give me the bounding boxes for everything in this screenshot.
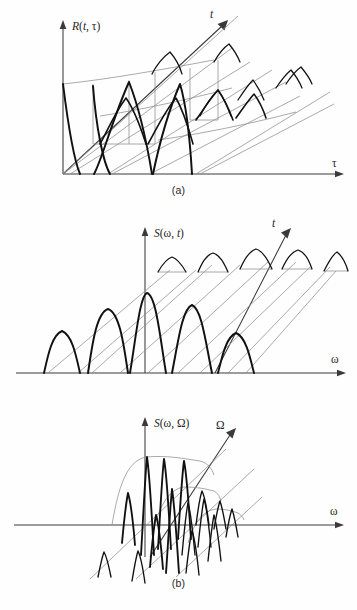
panel-a-depth-axis: [63, 20, 228, 174]
panel-a-caption: (a): [0, 184, 357, 196]
panel-c: S(ω, Ω) Ω ω (c): [0, 397, 357, 610]
panel-b-front-lobes: [44, 293, 254, 373]
panel-a-rear-lobes: [152, 44, 312, 84]
figure-three-panel-spectra: R(t, τ) t τ (a): [0, 0, 357, 610]
panel-c-depth-axis-label: Ω: [216, 419, 225, 431]
panel-b-plot: S(ω, t) t ω: [0, 205, 357, 397]
panel-b-horizontal-axis-label: ω: [331, 353, 339, 365]
panel-a-vertical-axis-label: R(t, τ): [71, 20, 100, 33]
panel-b-rear-lobes: [158, 249, 348, 272]
panel-c-foot-spikes: [98, 551, 145, 583]
panel-a: R(t, τ) t τ (a): [0, 0, 357, 208]
panel-c-horizontal-axis-label: ω: [330, 505, 338, 517]
panel-a-horizontal-axis: [63, 171, 344, 178]
panel-a-row1-lobes: [63, 82, 192, 174]
panel-b-rear-baselines: [158, 269, 348, 272]
panel-a-horizontal-axis-label: τ: [332, 157, 337, 169]
panel-b-depth-axis-label: t: [272, 217, 276, 229]
panel-a-row3-lobes: [200, 70, 302, 116]
panel-a-plot: R(t, τ) t τ: [0, 0, 357, 208]
panel-b: S(ω, t) t ω (b): [0, 205, 357, 397]
panel-b-vertical-axis-label: S(ω, t): [154, 227, 184, 240]
panel-c-row-baselines: [90, 449, 262, 579]
panel-c-row1-spikes: [122, 457, 209, 555]
panel-c-vertical-axis-label: S(ω, Ω): [154, 417, 189, 430]
panel-c-plot: S(ω, Ω) Ω ω: [0, 397, 357, 610]
panel-a-depth-axis-label: t: [210, 8, 214, 20]
